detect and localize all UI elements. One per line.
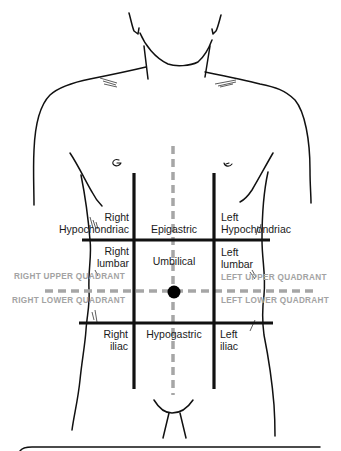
shoulder-arm-outline	[34, 67, 311, 205]
label-left-iliac: Left iliac	[220, 328, 238, 352]
label-line: Hypochondriac	[221, 223, 291, 235]
label-left-hypochondriac: Left Hypochondriac	[221, 211, 291, 235]
label-line: Umbilical	[137, 255, 211, 267]
label-line: Right	[103, 328, 128, 340]
abdominal-regions-diagram: Right Hypochondriac Epigastric Left Hypo…	[0, 0, 341, 451]
label-line: Right	[97, 245, 129, 257]
label-hypogastric: Hypogastric	[137, 328, 211, 340]
umbilicus-dot	[168, 286, 181, 299]
label-left-upper-quadrant: LEFT UPPER QUADRANT	[221, 273, 327, 282]
label-epigastric: Epigastric	[137, 223, 211, 235]
label-line: Left	[221, 211, 291, 223]
label-right-lumbar: Right lumbar	[97, 245, 129, 269]
label-line: Epigastric	[137, 223, 211, 235]
neck-outline	[129, 13, 221, 79]
label-right-iliac: Right iliac	[103, 328, 128, 352]
label-line: iliac	[103, 340, 128, 352]
label-line: iliac	[220, 340, 238, 352]
label-line: lumbar	[97, 257, 129, 269]
label-line: Right	[59, 211, 129, 223]
label-line: Hypogastric	[137, 328, 211, 340]
label-left-lower-quadrant: LEFT LOWER QUADRAHT	[221, 296, 329, 305]
label-umbilical: Umbilical	[137, 255, 211, 267]
base-line	[20, 447, 320, 451]
label-line: Left	[220, 328, 238, 340]
label-right-hypochondriac: Right Hypochondriac	[59, 211, 129, 235]
label-right-lower-quadrant: RIGHT LOWER QUADRANT	[12, 296, 125, 305]
pubic-outline	[154, 400, 193, 438]
label-left-lumbar: Left lumbar	[221, 246, 253, 270]
label-right-upper-quadrant: RIGHT UPPER QUADRANT	[14, 272, 125, 281]
label-line: Left	[221, 246, 253, 258]
label-line: Hypochondriac	[59, 223, 129, 235]
label-line: lumbar	[221, 258, 253, 270]
